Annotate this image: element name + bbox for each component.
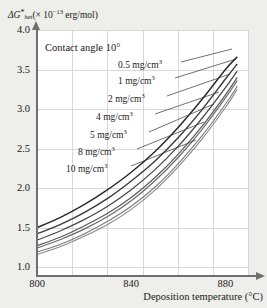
- leader-lines: [0, 0, 267, 308]
- figure-container: ΔG*het(× 10−13 erg/mol) 1.01.52.02.53.03…: [0, 0, 267, 308]
- leader-line: [181, 49, 232, 62]
- leader-line: [155, 92, 219, 114]
- leader-line: [131, 140, 196, 166]
- leader-line: [149, 104, 214, 132]
- leader-line: [137, 122, 204, 149]
